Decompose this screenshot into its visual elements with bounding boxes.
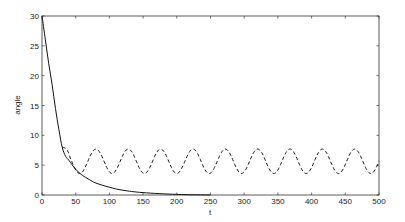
x-tick-label: 150 (136, 197, 150, 206)
y-tick-label: 10 (30, 131, 39, 140)
x-tick-label: 300 (238, 197, 252, 206)
series-group (42, 16, 379, 195)
x-ticks: 050100150200250300350400450500 (40, 16, 386, 206)
series-line-dashed (62, 147, 379, 173)
y-tick-label: 15 (30, 102, 39, 111)
x-tick-label: 0 (40, 197, 45, 206)
series-line-solid (42, 16, 211, 195)
y-tick-label: 30 (30, 12, 39, 21)
x-axis-label: t (209, 208, 212, 217)
x-tick-label: 200 (170, 197, 184, 206)
y-tick-label: 0 (35, 191, 40, 200)
x-tick-label: 400 (305, 197, 319, 206)
y-tick-label: 25 (30, 42, 39, 51)
x-tick-label: 100 (103, 197, 117, 206)
x-tick-label: 350 (271, 197, 285, 206)
y-tick-label: 5 (35, 161, 40, 170)
plot-frame (42, 16, 379, 195)
y-tick-label: 20 (30, 72, 39, 81)
x-tick-label: 50 (71, 197, 80, 206)
x-tick-label: 250 (204, 197, 218, 206)
x-tick-label: 450 (339, 197, 353, 206)
x-tick-label: 500 (372, 197, 386, 206)
y-axis-label: angle (13, 95, 22, 115)
chart: 050100150200250300350400450500 051015202… (0, 0, 405, 222)
